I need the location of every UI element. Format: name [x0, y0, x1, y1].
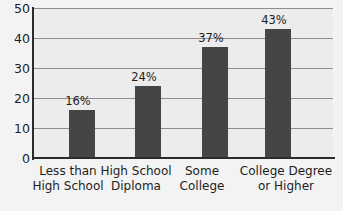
- gridline-50: [34, 8, 333, 9]
- bar-chart: 50 40 30 20 10 0 16% 24% 37% 43% Less th…: [0, 0, 343, 211]
- y-tick-50: 50: [0, 3, 30, 16]
- plot-area: [34, 8, 333, 158]
- category-label-line-2: or Higher: [232, 179, 340, 194]
- y-tick-20: 20: [0, 93, 30, 106]
- bar-less-than-high-school: [69, 110, 95, 158]
- bar-value-less-than-high-school: 16%: [51, 96, 105, 108]
- bar-value-high-school-diploma: 24%: [117, 72, 171, 84]
- x-axis-line: [32, 157, 335, 159]
- category-label-line-1: College Degree: [232, 164, 340, 179]
- y-tick-40: 40: [0, 33, 30, 46]
- bar-high-school-diploma: [135, 86, 161, 158]
- category-label-college-degree-or-higher: College Degree or Higher: [232, 164, 340, 194]
- y-axis-line: [32, 7, 34, 160]
- category-label-line-2: College: [167, 179, 237, 194]
- y-tick-30: 30: [0, 63, 30, 76]
- bar-value-some-college: 37%: [184, 33, 238, 45]
- bar-college-degree-or-higher: [265, 29, 291, 158]
- bar-some-college: [202, 47, 228, 158]
- category-label-line-1: Some: [167, 164, 237, 179]
- y-tick-10: 10: [0, 123, 30, 136]
- category-label-some-college: Some College: [167, 164, 237, 194]
- bar-value-college-degree-or-higher: 43%: [247, 15, 301, 27]
